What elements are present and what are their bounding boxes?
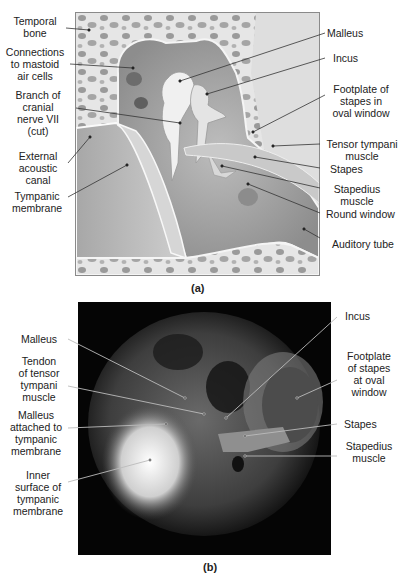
middle-ear-drawing	[76, 13, 319, 275]
label-footplate-stapes-oval: Footplate of stapes in oval window	[322, 83, 400, 119]
caption-b: (b)	[203, 561, 217, 573]
label-b-tendon-tensor-tympani: Tendon of tensor tympani muscle	[10, 355, 68, 403]
tympanic-view	[78, 302, 331, 555]
label-malleus: Malleus	[327, 27, 363, 39]
label-connections-mastoid: Connections to mastoid air cells	[0, 46, 70, 82]
otoscope-photograph	[78, 302, 331, 555]
caption-a: (a)	[191, 282, 204, 294]
label-b-stapedius-muscle: Stapedius muscle	[338, 440, 400, 464]
label-cranial-nerve-vii: Branch of cranial nerve VII (cut)	[8, 89, 68, 137]
label-b-incus: Incus	[345, 310, 370, 322]
label-stapedius-muscle: Stapedius muscle	[322, 183, 392, 207]
label-incus: Incus	[333, 52, 358, 64]
label-b-malleus-attached: Malleus attached to tympanic membrane	[4, 409, 68, 457]
label-auditory-tube: Auditory tube	[332, 238, 394, 250]
label-b-stapes: Stapes	[344, 418, 377, 430]
label-tympanic-membrane: Tympanic membrane	[6, 190, 68, 214]
label-temporal-bone: Temporal bone	[6, 15, 64, 39]
label-stapes: Stapes	[330, 163, 363, 175]
label-b-inner-surface: Inner surface of tympanic membrane	[8, 469, 68, 517]
label-tensor-tympani: Tensor tympani muscle	[322, 138, 402, 162]
middle-ear-illustration	[75, 12, 320, 276]
label-external-acoustic-canal: External acoustic canal	[8, 150, 68, 186]
label-b-footplate-stapes-oval: Footplate of stapes at oval window	[338, 350, 400, 398]
label-b-malleus: Malleus	[10, 333, 68, 345]
label-round-window: Round window	[326, 208, 395, 220]
